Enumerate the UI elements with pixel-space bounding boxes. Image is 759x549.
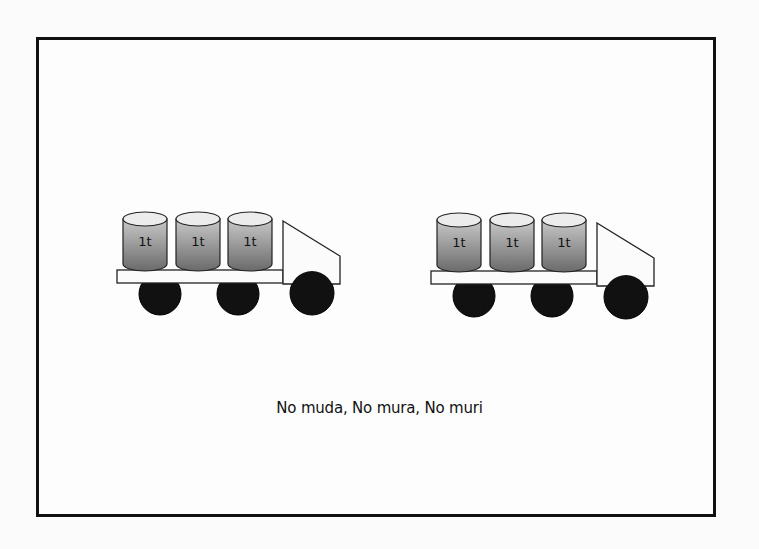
truck-bed [431, 271, 597, 284]
drum-weight-label: 1t [243, 234, 256, 249]
trucks-diagram: 1t1t1t1t1t1t [0, 0, 759, 549]
front-wheel [290, 271, 334, 315]
drum-top [437, 213, 481, 227]
drum-weight-label: 1t [505, 235, 518, 250]
load-drum: 1t [437, 213, 481, 272]
load-drum: 1t [542, 213, 586, 272]
drum-top [123, 212, 167, 226]
load-drum: 1t [228, 212, 272, 271]
drum-weight-label: 1t [557, 235, 570, 250]
drum-weight-label: 1t [191, 234, 204, 249]
truck-bed [117, 270, 283, 283]
drum-top [490, 213, 534, 227]
load-drum: 1t [123, 212, 167, 271]
caption-text: No muda, No mura, No muri [0, 399, 759, 417]
truck-right: 1t1t1t [431, 213, 654, 319]
load-drum: 1t [490, 213, 534, 272]
drum-weight-label: 1t [452, 235, 465, 250]
load-drum: 1t [176, 212, 220, 271]
drum-top [542, 213, 586, 227]
drum-weight-label: 1t [138, 234, 151, 249]
drum-top [176, 212, 220, 226]
drum-top [228, 212, 272, 226]
front-wheel [604, 275, 648, 319]
truck-left: 1t1t1t [117, 212, 340, 315]
